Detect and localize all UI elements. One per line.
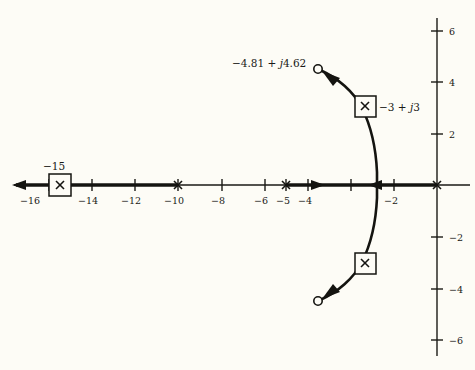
- annotation-pole-minus3-plus-j3: −3 + j3: [379, 101, 420, 113]
- tick-label-y-5: −6: [449, 335, 463, 346]
- closed-loop-pole-minus3-plus-j3: [355, 96, 376, 117]
- tick-label-x-3: −10: [164, 195, 184, 206]
- tick-label-y-1: 4: [449, 77, 455, 88]
- tick-label-x-4: −8: [211, 195, 225, 206]
- annotation-pole-suffix: 3: [413, 101, 420, 113]
- real-axis-tick-labels: −16 −14 −12 −10 −8 −6 −5 −4 −2: [20, 195, 398, 206]
- tick-label-x-2: −12: [121, 195, 141, 206]
- locus-lower-arrow: [322, 284, 340, 299]
- tick-label-y-0: 6: [449, 26, 455, 37]
- locus-lower-branch: [320, 185, 377, 300]
- tick-label-y-3: −2: [449, 232, 463, 243]
- plot-canvas: −16 −14 −12 −10 −8 −6 −5 −4 −2 6 4 2 −2 …: [0, 0, 475, 370]
- annotation-endpoint-upper: −4.81 + j4.62: [232, 57, 306, 69]
- endpoint-zero-lower: [314, 297, 322, 305]
- tick-label-y-4: −4: [449, 284, 463, 295]
- annotation-endpoint-upper-suffix: 4.62: [283, 57, 306, 69]
- tick-label-x-7: −4: [298, 195, 312, 206]
- closed-loop-pole-minus3-minus-j3: [355, 253, 376, 274]
- tick-label-x-1: −14: [78, 195, 98, 206]
- tick-label-x-0: −16: [20, 195, 40, 206]
- annotation-endpoint-upper-prefix: −4.81 +: [232, 57, 280, 69]
- tick-label-x-6: −5: [276, 195, 290, 206]
- endpoint-zero-upper: [314, 65, 322, 73]
- locus-upper-arrow: [322, 71, 340, 86]
- tick-label-y-2: 2: [449, 129, 455, 140]
- tick-label-x-5: −6: [254, 195, 268, 206]
- annotation-pole-prefix: −3 +: [379, 101, 410, 113]
- closed-loop-pole-minus15: [49, 174, 71, 196]
- annotation-pole-minus15: −15: [43, 160, 65, 172]
- locus-upper-branch: [320, 70, 377, 185]
- root-locus-chart: −16 −14 −12 −10 −8 −6 −5 −4 −2 6 4 2 −2 …: [0, 0, 475, 370]
- tick-label-x-8: −2: [384, 195, 398, 206]
- imaginary-axis-tick-labels: 6 4 2 −2 −4 −6: [449, 26, 463, 346]
- locus-arrow-left-inner: [368, 180, 382, 190]
- locus-arrow-right: [311, 180, 325, 190]
